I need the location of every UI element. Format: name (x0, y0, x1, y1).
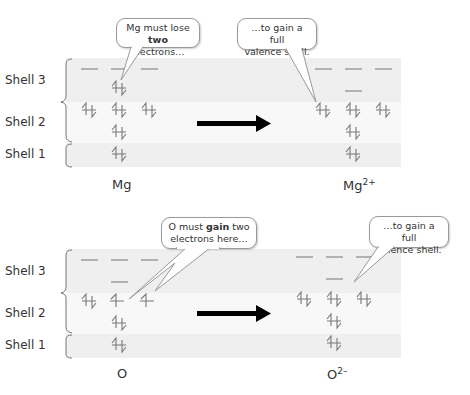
o-diagram: Shell 3 Shell 2 Shell 1 (0, 195, 470, 395)
callout-tails (0, 0, 470, 195)
callout-tails (0, 195, 470, 395)
mg-diagram: Shell 3 Shell 2 Shell 1 (0, 0, 470, 195)
